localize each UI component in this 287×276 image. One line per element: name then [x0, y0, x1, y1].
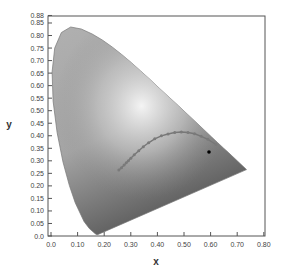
- y-axis-ticks: 0.00.050.100.150.200.250.300.350.400.450…: [30, 12, 52, 240]
- svg-text:0.65: 0.65: [30, 70, 44, 77]
- svg-text:0.30: 0.30: [124, 241, 138, 248]
- chromaticity-chart: 0.00.100.200.300.400.500.600.700.80 0.00…: [0, 0, 287, 276]
- svg-text:0.80: 0.80: [30, 32, 44, 39]
- svg-text:0.50: 0.50: [177, 241, 191, 248]
- svg-text:0.55: 0.55: [30, 95, 44, 102]
- y-axis-label: y: [6, 119, 12, 130]
- spectral-locus-area: [52, 27, 246, 235]
- sample-point: [207, 150, 211, 154]
- x-axis-ticks: 0.00.100.200.300.400.500.600.700.80: [46, 232, 271, 248]
- svg-text:0.50: 0.50: [30, 107, 44, 114]
- x-axis-label: x: [153, 256, 159, 267]
- svg-text:0.30: 0.30: [30, 157, 44, 164]
- svg-text:0.05: 0.05: [30, 220, 44, 227]
- svg-text:0.40: 0.40: [30, 132, 44, 139]
- svg-text:0.70: 0.70: [30, 57, 44, 64]
- svg-text:0.85: 0.85: [30, 19, 44, 26]
- svg-text:0.10: 0.10: [30, 207, 44, 214]
- svg-text:0.25: 0.25: [30, 170, 44, 177]
- svg-text:0.40: 0.40: [151, 241, 165, 248]
- svg-text:0.10: 0.10: [71, 241, 85, 248]
- svg-text:0.20: 0.20: [97, 241, 111, 248]
- svg-text:0.60: 0.60: [204, 241, 218, 248]
- svg-text:0.20: 0.20: [30, 182, 44, 189]
- svg-text:0.88: 0.88: [30, 12, 44, 19]
- svg-text:0.35: 0.35: [30, 145, 44, 152]
- svg-text:0.80: 0.80: [257, 241, 271, 248]
- svg-text:0.60: 0.60: [30, 82, 44, 89]
- svg-text:0.0: 0.0: [46, 241, 56, 248]
- svg-text:0.70: 0.70: [230, 241, 244, 248]
- svg-text:0.45: 0.45: [30, 120, 44, 127]
- svg-text:0.15: 0.15: [30, 195, 44, 202]
- svg-text:0.0: 0.0: [34, 233, 44, 240]
- svg-text:0.75: 0.75: [30, 45, 44, 52]
